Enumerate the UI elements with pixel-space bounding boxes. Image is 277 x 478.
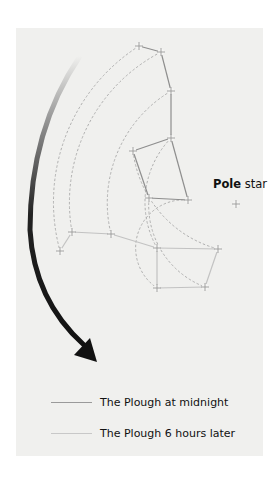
midnight-star [135,42,143,50]
star-trail-arcs [53,46,218,288]
midnight-plough-line [161,52,171,91]
star-trail-arc [145,138,171,248]
star-icon [214,245,222,253]
rotation-arrow-shaft [30,56,84,345]
pole-star-label-bold: Pole [213,177,241,191]
midnight-star [167,134,175,142]
star-icon [107,230,115,238]
legend-label-later: The Plough 6 hours later [100,427,235,440]
later-star [201,283,209,291]
star-icon [153,244,161,252]
star-icon [145,194,153,202]
midnight-plough-line [133,151,149,198]
midnight-plough-line [149,198,188,200]
midnight-plough-line [139,46,161,52]
later-plough-line [60,232,72,251]
midnight-star [184,196,192,204]
pole-star-label: Pole star [213,177,267,191]
midnight-star [145,194,153,202]
constellation-lines [60,46,218,288]
midnight-star [167,87,175,95]
star-icon [232,200,240,208]
star-trail-arc [133,151,218,249]
later-plough-line [72,232,111,234]
later-star [56,247,64,255]
later-plough-line [205,249,218,287]
later-star [68,228,76,236]
star-trail-arc [69,52,161,232]
later-star [153,244,161,252]
star-icon [167,87,175,95]
midnight-plough-line [171,138,188,200]
midnight-plough-line [133,138,171,151]
midnight-star [129,147,137,155]
later-star [214,245,222,253]
stars [56,42,240,292]
pole-star-label-rest: star [241,177,267,191]
star-trail-arc [107,91,171,234]
star-icon [157,48,165,56]
legend-label-midnight: The Plough at midnight [100,396,228,409]
later-star [107,230,115,238]
legend-item-midnight: The Plough at midnight [51,395,228,409]
later-plough-line [157,248,218,249]
midnight-star [157,48,165,56]
star-icon [153,284,161,292]
later-plough-line [157,287,205,288]
rotation-arrow [30,56,97,362]
star-icon [135,42,143,50]
star-icon [184,196,192,204]
later-plough-line [111,234,157,248]
pole-star [232,200,240,208]
star-icon [201,283,209,291]
star-icon [68,228,76,236]
legend-item-later: The Plough 6 hours later [51,426,235,440]
star-icon [56,247,64,255]
star-icon [129,147,137,155]
star-icon [167,134,175,142]
legend-swatch-midnight [51,402,92,403]
later-star [153,284,161,292]
legend-swatch-later [51,433,92,434]
